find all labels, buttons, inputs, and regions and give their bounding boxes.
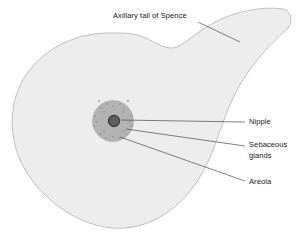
sebaceous-gland-dot bbox=[129, 121, 131, 123]
sebaceous-gland-dot bbox=[103, 111, 105, 113]
label-sebaceous-glands-line2: glands bbox=[249, 151, 272, 160]
sebaceous-gland-dot bbox=[103, 130, 105, 132]
sebaceous-gland-dot bbox=[98, 100, 100, 102]
sebaceous-gland-dot bbox=[119, 103, 121, 105]
label-axillary-tail-of-spence: Axillary tail of Spence bbox=[113, 11, 187, 20]
sebaceous-gland-dot bbox=[131, 125, 133, 127]
sebaceous-gland-dot bbox=[123, 107, 125, 109]
sebaceous-gland-dot bbox=[94, 115, 96, 117]
sebaceous-gland-dot bbox=[112, 105, 114, 107]
anatomy-diagram-canvas: Axillary tail of Spence Nipple Sebaceous… bbox=[0, 0, 301, 235]
breast-anatomy-figure: Axillary tail of Spence Nipple Sebaceous… bbox=[0, 0, 301, 235]
sebaceous-gland-dot bbox=[122, 130, 124, 132]
nipple-shape bbox=[108, 115, 119, 126]
sebaceous-gland-dot bbox=[100, 107, 102, 109]
sebaceous-gland-dot bbox=[125, 133, 127, 135]
sebaceous-gland-dot bbox=[105, 137, 107, 139]
sebaceous-gland-dot bbox=[96, 121, 98, 123]
sebaceous-gland-dot bbox=[112, 136, 114, 138]
sebaceous-gland-dot bbox=[130, 115, 132, 117]
label-sebaceous-glands-line1: Sebaceous bbox=[249, 140, 288, 149]
sebaceous-gland-dot bbox=[118, 137, 120, 139]
sebaceous-gland-dot bbox=[127, 100, 129, 102]
sebaceous-gland-dot bbox=[122, 111, 124, 113]
label-areola: Areola bbox=[249, 177, 272, 186]
sebaceous-gland-dot bbox=[100, 133, 102, 135]
label-nipple: Nipple bbox=[249, 117, 271, 126]
sebaceous-gland-dot bbox=[93, 125, 95, 127]
sebaceous-gland-dot bbox=[106, 103, 108, 105]
